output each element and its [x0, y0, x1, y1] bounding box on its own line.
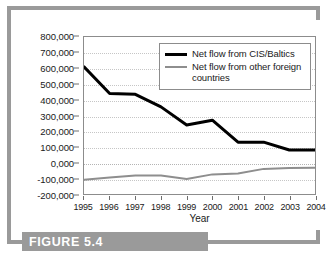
y-tick-label: 700,000: [40, 46, 74, 57]
figure-container: 800,000700,000600,000500,000400,000300,0…: [0, 0, 328, 253]
legend-item-secondary: Net flow from other foreign countries: [165, 61, 305, 83]
x-tick-label: 1995: [73, 202, 92, 212]
y-tick-label: 600,000: [40, 62, 74, 73]
chart-legend: Net flow from CIS/Baltics Net flow from …: [159, 43, 311, 90]
x-tick-mark: [83, 196, 84, 200]
chart-canvas: 800,000700,000600,000500,000400,000300,0…: [22, 20, 327, 230]
y-tick-mark: [74, 99, 79, 100]
x-tick-label: 2002: [255, 202, 274, 212]
y-tick-label: -100,000: [37, 174, 74, 185]
y-tick-mark: [74, 147, 79, 148]
y-tick-label: -200,000: [37, 190, 74, 201]
x-tick-mark: [264, 196, 265, 200]
legend-label-primary: Net flow from CIS/Baltics: [192, 48, 295, 59]
y-axis: 800,000700,000600,000500,000400,000300,0…: [22, 36, 79, 195]
y-tick-label: 800,000: [40, 31, 74, 42]
legend-swatch-primary-icon: [165, 53, 187, 56]
x-tick-label: 2000: [203, 202, 222, 212]
y-tick-mark: [74, 115, 79, 116]
x-tick-label: 2003: [280, 202, 299, 212]
figure-frame: 800,000700,000600,000500,000400,000300,0…: [7, 6, 320, 244]
y-tick-label: 0,000: [51, 158, 74, 169]
x-tick-mark: [212, 196, 213, 200]
figure-caption-band: FIGURE 5.4: [22, 232, 208, 251]
series-line-secondary: [84, 168, 315, 180]
x-tick-label: 2004: [306, 202, 325, 212]
figure-caption-text: FIGURE 5.4: [22, 235, 103, 249]
legend-item-primary: Net flow from CIS/Baltics: [165, 48, 305, 59]
x-tick-mark: [290, 196, 291, 200]
legend-label-secondary: Net flow from other foreign countries: [192, 61, 305, 83]
x-tick-label: 1997: [125, 202, 144, 212]
x-tick-label: 1998: [151, 202, 170, 212]
x-tick-label: 1996: [99, 202, 118, 212]
y-tick-label: 500,000: [40, 78, 74, 89]
y-tick-mark: [74, 67, 79, 68]
y-tick-label: 300,000: [40, 110, 74, 121]
x-tick-label: 2001: [229, 202, 248, 212]
x-tick-mark: [109, 196, 110, 200]
y-tick-mark: [74, 163, 79, 164]
y-tick-mark: [74, 179, 79, 180]
y-tick-mark: [74, 195, 79, 196]
chart-plot-wrapper: 800,000700,000600,000500,000400,000300,0…: [22, 20, 327, 230]
y-tick-label: 200,000: [40, 126, 74, 137]
y-tick-mark: [74, 36, 79, 37]
y-tick-mark: [74, 131, 79, 132]
x-tick-mark: [238, 196, 239, 200]
x-axis: 1995199619971998199920002001200220032004: [83, 196, 316, 214]
x-tick-mark: [135, 196, 136, 200]
x-tick-mark: [161, 196, 162, 200]
y-tick-label: 400,000: [40, 94, 74, 105]
x-tick-label: 1999: [177, 202, 196, 212]
y-tick-label: 100,000: [40, 142, 74, 153]
x-axis-title: Year: [83, 213, 316, 224]
y-tick-mark: [74, 83, 79, 84]
legend-swatch-secondary-icon: [165, 66, 187, 68]
x-tick-mark: [187, 196, 188, 200]
x-tick-mark: [316, 196, 317, 200]
y-tick-mark: [74, 51, 79, 52]
